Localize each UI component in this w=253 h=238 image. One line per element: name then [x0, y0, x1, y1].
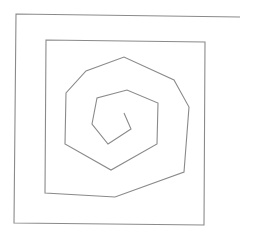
spiral-line [14, 14, 240, 225]
spiral-drawing-canvas [0, 0, 253, 238]
